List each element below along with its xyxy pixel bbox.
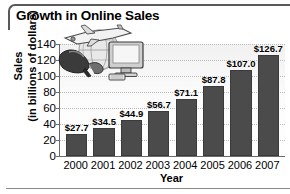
chart-figure: Growth in Online Sales Sales (in billion…: [0, 0, 290, 194]
x-tick-label: 2001: [91, 159, 115, 171]
bar: [203, 86, 224, 156]
bar-slot: $27.7: [63, 44, 90, 156]
bar-value-label: $34.5: [92, 116, 116, 127]
bar-slot: $126.7: [255, 44, 282, 156]
bar: [121, 120, 142, 156]
x-tick-label: 2007: [255, 159, 279, 171]
bar-slot: $107.0: [227, 44, 254, 156]
y-tick-label: 140: [16, 38, 56, 50]
bar: [66, 134, 87, 156]
y-tick-label: 20: [16, 134, 56, 146]
bar-slot: $34.5: [90, 44, 117, 156]
bar-value-label: $87.8: [202, 74, 226, 85]
y-tick-label: 0: [16, 150, 56, 162]
bar: [230, 70, 251, 156]
x-tick-label: 2006: [228, 159, 252, 171]
bottom-divider: [6, 188, 290, 189]
y-tick-label: 60: [16, 102, 56, 114]
bar-value-label: $71.1: [174, 87, 198, 98]
x-tick-label: 2004: [173, 159, 197, 171]
x-axis-title: Year: [59, 172, 284, 184]
y-tick-label: 40: [16, 118, 56, 130]
x-tick-label: 2002: [118, 159, 142, 171]
bar: [176, 99, 197, 156]
bar-value-label: $56.7: [147, 99, 171, 110]
x-tick-label: 2000: [63, 159, 87, 171]
bar: [148, 111, 169, 156]
x-tick-label: 2005: [200, 159, 224, 171]
y-tick-label: 120: [16, 54, 56, 66]
bar-slot: $56.7: [145, 44, 172, 156]
bar-value-label: $44.9: [120, 108, 144, 119]
bar: [258, 55, 279, 156]
bar: [93, 128, 114, 156]
bar-value-label: $126.7: [254, 43, 283, 54]
bar-slot: $71.1: [173, 44, 200, 156]
x-tick-label: 2003: [146, 159, 170, 171]
y-tick-label: 80: [16, 86, 56, 98]
plot-area: $27.7$34.5$44.9$56.7$71.1$87.8$107.0$126…: [59, 44, 285, 157]
y-tick-mark: [56, 156, 60, 157]
bar-slot: $87.8: [200, 44, 227, 156]
bar-value-label: $107.0: [226, 58, 255, 69]
y-tick-label: 100: [16, 70, 56, 82]
bar-slot: $44.9: [118, 44, 145, 156]
bar-series: $27.7$34.5$44.9$56.7$71.1$87.8$107.0$126…: [60, 44, 285, 156]
bar-value-label: $27.7: [65, 122, 89, 133]
